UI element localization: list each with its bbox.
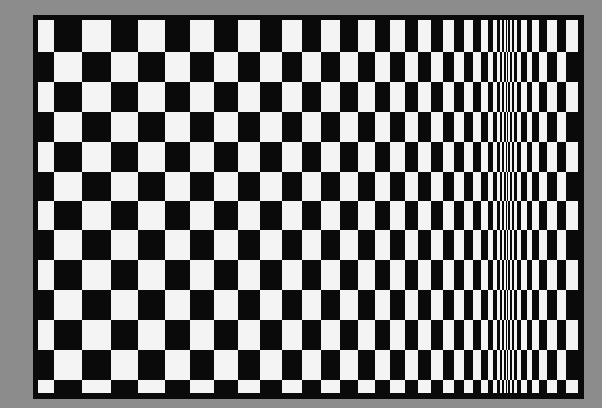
board-square-light xyxy=(508,230,510,260)
board-square-light xyxy=(510,201,512,230)
board-square-light xyxy=(38,142,54,172)
board-square-light xyxy=(504,201,506,230)
board-square-light xyxy=(358,260,375,290)
board-square-light xyxy=(282,20,302,52)
board-square-light xyxy=(190,380,214,393)
board-square-light xyxy=(539,230,547,260)
board-square-light xyxy=(506,350,507,380)
board-square-light xyxy=(321,20,340,52)
board-square-light xyxy=(514,20,517,52)
board-square-light xyxy=(473,350,481,380)
board-square-light xyxy=(111,112,138,142)
board-square-light xyxy=(82,380,111,393)
board-square-light xyxy=(517,52,521,82)
board-square-light xyxy=(514,201,517,230)
board-square-light xyxy=(190,260,214,290)
board-square-light xyxy=(138,320,165,350)
board-square-light xyxy=(375,172,390,201)
board-square-light xyxy=(238,260,260,290)
board-square-light xyxy=(500,201,502,230)
board-square-light xyxy=(260,52,282,82)
board-square-light xyxy=(547,82,557,112)
board-square-light xyxy=(527,350,532,380)
board-square-light xyxy=(566,260,578,290)
board-square-light xyxy=(282,320,302,350)
board-square-light xyxy=(500,82,502,112)
board-square-light xyxy=(481,260,488,290)
board-square-light xyxy=(512,350,514,380)
board-square-light xyxy=(517,230,521,260)
board-square-light xyxy=(358,201,375,230)
board-square-light xyxy=(260,230,282,260)
board-square-light xyxy=(488,172,493,201)
board-square-light xyxy=(214,230,238,260)
board-square-light xyxy=(500,142,502,172)
board-square-light xyxy=(532,260,539,290)
board-square-light xyxy=(282,142,302,172)
board-square-light xyxy=(214,52,238,82)
board-square-light xyxy=(358,380,375,393)
board-square-light xyxy=(547,320,557,350)
board-square-light xyxy=(340,290,358,320)
board-square-light xyxy=(321,142,340,172)
board-square-light xyxy=(481,380,488,393)
board-square-light xyxy=(512,230,514,260)
board-square-light xyxy=(514,82,517,112)
board-square-light xyxy=(82,201,111,230)
board-square-light xyxy=(238,20,260,52)
board-square-light xyxy=(507,320,508,350)
board-square-light xyxy=(302,52,321,82)
board-square-light xyxy=(165,52,190,82)
board-square-light xyxy=(260,350,282,380)
board-square-light xyxy=(504,260,506,290)
board-square-light xyxy=(510,142,512,172)
board-square-light xyxy=(508,112,510,142)
board-square-light xyxy=(566,82,578,112)
board-square-light xyxy=(557,350,566,380)
board-square-light xyxy=(390,82,405,112)
board-square-light xyxy=(488,112,493,142)
board-square-light xyxy=(321,82,340,112)
board-square-light xyxy=(532,201,539,230)
board-square-light xyxy=(547,142,557,172)
board-square-light xyxy=(557,172,566,201)
board-square-light xyxy=(390,201,405,230)
board-square-light xyxy=(418,201,431,230)
board-square-light xyxy=(514,380,517,393)
board-square-light xyxy=(566,380,578,393)
board-square-light xyxy=(488,230,493,260)
board-square-light xyxy=(340,230,358,260)
board-square-light xyxy=(38,380,54,393)
board-square-light xyxy=(497,172,500,201)
board-square-light xyxy=(527,172,532,201)
board-square-light xyxy=(521,320,527,350)
board-square-light xyxy=(510,380,512,393)
board-square-light xyxy=(454,350,464,380)
board-square-light xyxy=(547,260,557,290)
board-square-light xyxy=(517,172,521,201)
board-square-light xyxy=(340,172,358,201)
board-square-light xyxy=(260,112,282,142)
board-square-light xyxy=(454,172,464,201)
board-square-light xyxy=(431,350,443,380)
board-square-light xyxy=(443,320,454,350)
board-square-light xyxy=(493,201,497,230)
board-square-light xyxy=(54,172,82,201)
board-square-light xyxy=(506,112,507,142)
board-square-light xyxy=(507,142,508,172)
board-square-light xyxy=(302,112,321,142)
board-square-light xyxy=(514,142,517,172)
board-square-light xyxy=(566,201,578,230)
board-square-light xyxy=(539,52,547,82)
board-square-light xyxy=(493,260,497,290)
board-square-light xyxy=(521,201,527,230)
board-square-light xyxy=(464,320,473,350)
board-square-light xyxy=(443,201,454,230)
board-square-light xyxy=(282,82,302,112)
board-square-light xyxy=(111,172,138,201)
board-square-light xyxy=(506,290,507,320)
board-square-light xyxy=(321,260,340,290)
board-square-light xyxy=(506,52,507,82)
board-square-light xyxy=(358,320,375,350)
board-square-light xyxy=(464,82,473,112)
